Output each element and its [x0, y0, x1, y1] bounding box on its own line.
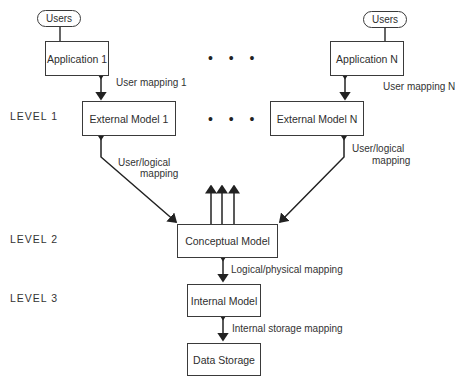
application-1-box: Application 1: [45, 41, 109, 76]
level-2-label: LEVEL 2: [10, 233, 58, 245]
users-oval-1: Users: [37, 10, 81, 27]
external-model-1-box: External Model 1: [82, 101, 176, 136]
logical-physical-label: Logical/physical mapping: [231, 264, 343, 276]
external-model-n-box: External Model N: [270, 101, 364, 136]
ellipsis-applications: • • •: [208, 53, 260, 63]
user-logical-left-label-2: mapping: [140, 168, 178, 180]
internal-model-box: Internal Model: [187, 284, 261, 317]
ellipsis-external-models: • • •: [208, 114, 260, 124]
internal-storage-label: Internal storage mapping: [232, 323, 343, 335]
level-3-label: LEVEL 3: [10, 292, 58, 304]
users-oval-n: Users: [363, 11, 407, 28]
user-logical-right-label-2: mapping: [372, 155, 410, 167]
user-mapping-n-label: User mapping N: [383, 81, 455, 93]
conceptual-model-box: Conceptual Model: [177, 224, 278, 258]
application-n-box: Application N: [330, 41, 404, 76]
user-logical-right-label-1: User/logical: [352, 143, 404, 155]
user-logical-left-arrow: [101, 139, 176, 222]
user-mapping-1-label: User mapping 1: [116, 77, 187, 89]
user-logical-right-arrow: [280, 139, 344, 222]
data-storage-box: Data Storage: [187, 343, 261, 376]
level-1-label: LEVEL 1: [10, 110, 58, 122]
